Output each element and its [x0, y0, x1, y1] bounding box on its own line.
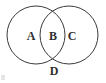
venn-diagram-figure: A B C D [0, 0, 106, 83]
corner-smudge-artifact [1, 75, 5, 80]
region-label-a: A [27, 30, 36, 42]
region-label-b: B [49, 30, 57, 42]
region-label-c: C [68, 30, 77, 42]
region-label-d: D [50, 65, 59, 77]
